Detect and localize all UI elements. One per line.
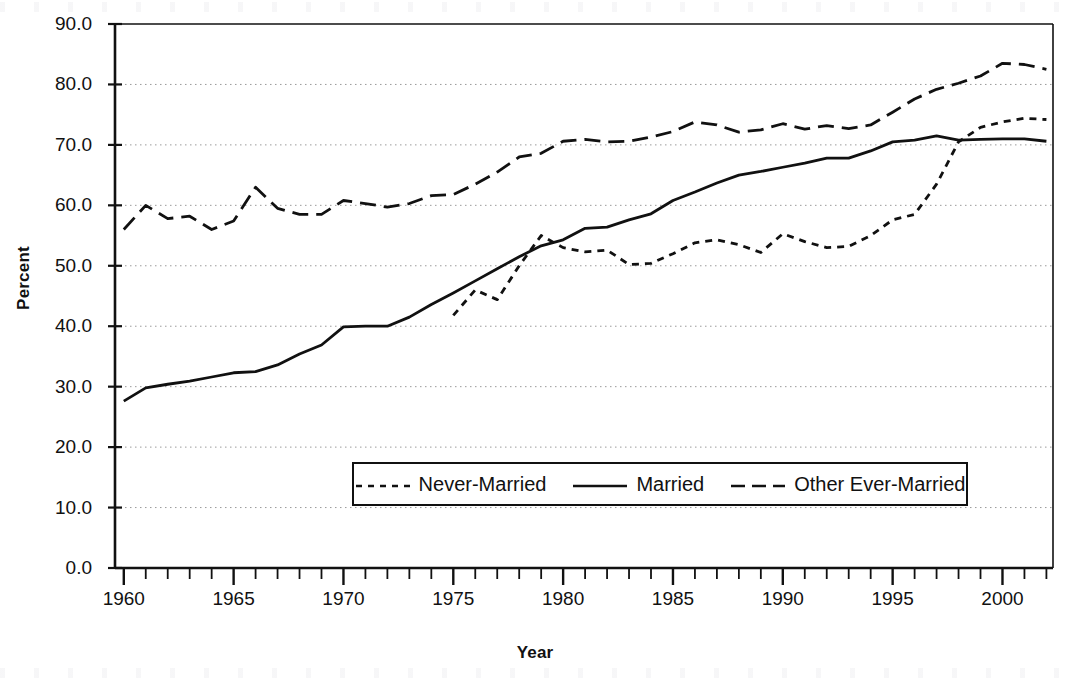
legend-swatch-never-married (355, 478, 411, 490)
x-tick-label: 2000 (962, 588, 1042, 610)
data-series-lines (124, 63, 1047, 401)
x-tick-label: 1985 (633, 588, 713, 610)
legend-entry-other-ever-married[interactable]: Other Ever-Married (730, 474, 965, 494)
plot-area (0, 0, 1070, 681)
x-axis-tick-labels: 196019651970197519801985199019952000 (0, 588, 1070, 618)
x-tick-label: 1980 (523, 588, 603, 610)
x-tick-label: 1965 (194, 588, 274, 610)
x-axis-title: Year (0, 643, 1070, 663)
legend-label-married: Married (636, 474, 704, 494)
series-line-never-married (453, 118, 1046, 315)
x-tick-label: 1960 (84, 588, 164, 610)
chart-legend: Never-Married Married Other Ever-Married (352, 462, 968, 506)
x-tick-label: 1995 (853, 588, 933, 610)
x-tick-label: 1990 (743, 588, 823, 610)
legend-entry-married[interactable]: Married (572, 474, 704, 494)
legend-swatch-other-ever-married (730, 478, 786, 490)
legend-label-other-ever-married: Other Ever-Married (794, 474, 965, 494)
x-axis-ticks (124, 568, 1047, 585)
line-chart-figure: Percent 0.010.020.030.040.050.060.070.08… (0, 0, 1070, 681)
x-tick-label: 1970 (303, 588, 383, 610)
legend-swatch-married (572, 478, 628, 490)
x-tick-label: 1975 (413, 588, 493, 610)
series-line-other-ever-married (124, 63, 1047, 229)
legend-label-never-married: Never-Married (419, 474, 547, 494)
legend-entry-never-married[interactable]: Never-Married (355, 474, 547, 494)
series-line-married (124, 136, 1047, 401)
